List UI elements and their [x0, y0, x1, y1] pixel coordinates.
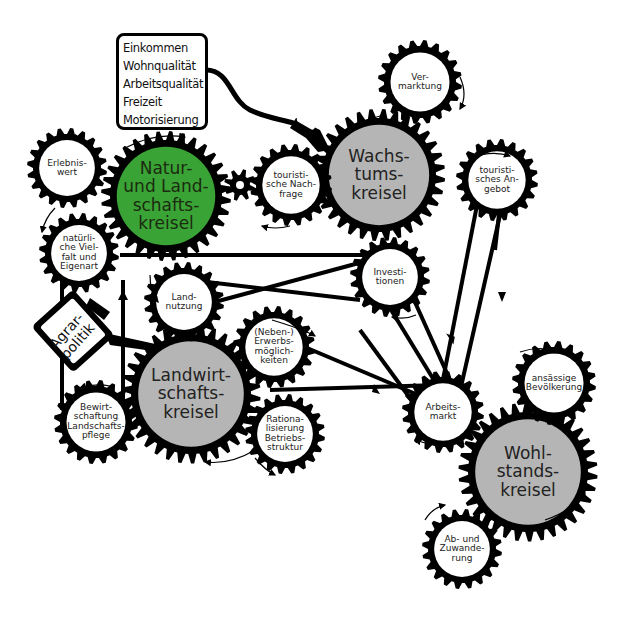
info-box: Einkommen Wohnqualität Arbeitsqualität F…: [116, 33, 208, 130]
info-item-motorisierung: Motorisierung: [123, 111, 201, 129]
gear-natur-landschaft: Natur- und Land- schafts- kreisel: [123, 159, 208, 232]
connector-gear-icon: [224, 169, 255, 200]
info-item-arbeitsqualitaet: Arbeitsqualität: [123, 75, 201, 93]
gear-erlebniswert: Erlebnis- wert: [47, 159, 86, 178]
gear-erwerbsmoeglichkeiten: (Neben-) Erwerbs- möglich- keiten: [254, 328, 294, 366]
gear-landnutzung: Land- nutzung: [166, 293, 203, 312]
gear-investitionen: Investi- tionen: [373, 268, 406, 287]
gear-ansaessige-bevoelkerung: ansässige Bevölkerung: [526, 374, 582, 393]
info-item-freizeit: Freizeit: [123, 93, 201, 111]
fuel-nozzle-hose: [206, 70, 330, 152]
gear-rationalisierung: Rationa- lisierung Betriebs- struktur: [265, 415, 306, 453]
gear-touristisches-angebot: touristi- sches An- gebot: [475, 166, 519, 194]
gear-arbeitsmarkt: Arbeits- markt: [425, 403, 460, 422]
gear-bewirtschaftung: Bewirt- schaftung Landschafts- pflege: [67, 403, 124, 441]
gear-diagram: Einkommen Wohnqualität Arbeitsqualität F…: [0, 0, 624, 618]
info-item-wohnqualitaet: Wohnqualität: [123, 57, 201, 75]
gear-touristische-nachfrage: touristi- sche Nach- frage: [266, 171, 316, 199]
gear-wachstum: Wachs- tums- kreisel: [348, 147, 409, 202]
info-item-einkommen: Einkommen: [123, 39, 201, 57]
gear-vermarktung: Ver- marktung: [398, 73, 442, 92]
diagram-canvas: [0, 0, 624, 618]
gear-natuerliche-vielfalt: natürli- che Viel- falt und Eigenart: [60, 234, 99, 272]
gear-landwirtschaft: Landwirt- schafts- kreisel: [151, 366, 231, 421]
gear-wohlstand: Wohl- stands- kreisel: [497, 444, 560, 499]
gear-ab-zuwanderung: Ab- und Zuwande- rung: [440, 535, 485, 563]
